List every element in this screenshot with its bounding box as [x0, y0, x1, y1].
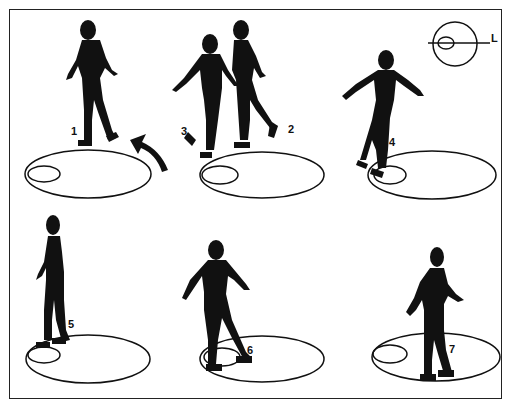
pose-number-5: 5: [68, 318, 74, 330]
inset-circle-diagram: L: [428, 22, 498, 66]
pose-6-tracing: [200, 336, 324, 382]
inset-label: L: [491, 32, 498, 44]
skater-figure-6: [182, 240, 252, 371]
pose-number-2: 2: [288, 123, 294, 135]
skater-figure-4: [342, 50, 424, 178]
skater-figure-3: [172, 34, 240, 158]
pose-number-1: 1: [71, 125, 77, 137]
pose-number-7: 7: [449, 343, 455, 355]
direction-arrow-icon: [130, 134, 168, 172]
pose-number-4: 4: [389, 136, 396, 148]
pose-1-tracing: [25, 150, 151, 198]
skater-figure-7: [406, 247, 464, 381]
pose-2-3-tracing: [200, 152, 324, 198]
pose-4-tracing: [368, 151, 496, 199]
skater-figure-5: [36, 215, 70, 348]
skating-diagram: L 1 3 2 4: [0, 0, 511, 408]
pose-number-6: 6: [247, 344, 253, 356]
pose-number-3: 3: [181, 125, 187, 137]
skater-figure-2: [232, 20, 278, 148]
